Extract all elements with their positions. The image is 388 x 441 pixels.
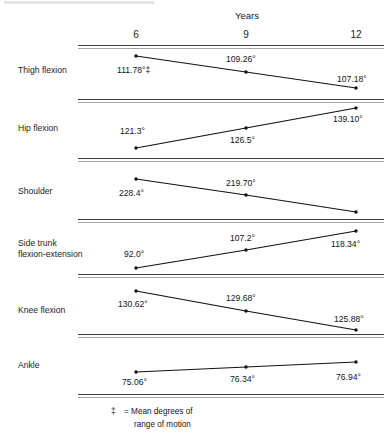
x-tick-label-12: 12 — [350, 29, 362, 40]
value-label: 129.68° — [226, 293, 256, 303]
x-tick-label-9: 9 — [243, 29, 249, 40]
value-label: 125.88° — [334, 314, 364, 324]
value-label: 76.34° — [230, 374, 255, 384]
figure-canvas: Years 6 9 12 Thigh flexion 111.78°‡ 109.… — [0, 0, 388, 441]
panel-thigh-flexion: Thigh flexion 111.78°‡ 109.26° 107.18° — [18, 54, 367, 90]
value-label: 75.06° — [122, 377, 147, 387]
data-point — [134, 54, 137, 57]
data-point — [354, 106, 357, 109]
panel-ankle: Ankle 75.06° 76.34° 76.94° — [18, 360, 361, 387]
value-label: 92.0° — [124, 249, 144, 259]
range-of-motion-figure: Years 6 9 12 Thigh flexion 111.78°‡ 109.… — [0, 0, 388, 441]
data-point — [244, 309, 247, 312]
data-point — [244, 126, 247, 129]
separator-rules — [78, 46, 384, 398]
data-point — [354, 210, 357, 213]
value-label: 121.3° — [120, 126, 145, 136]
value-label: 111.78°‡ — [117, 65, 150, 75]
row-label-side-trunk-line1: Side trunk — [18, 238, 57, 248]
data-point — [134, 177, 137, 180]
footnote-dagger-symbol: ‡ — [111, 407, 116, 416]
value-label: 76.94° — [336, 372, 361, 382]
value-label: 130.62° — [118, 299, 148, 309]
value-label: 118.34° — [331, 239, 360, 249]
data-point — [244, 193, 247, 196]
panel-hip-flexion: Hip flexion 121.3° 126.5° 139.10° — [18, 106, 363, 149]
footnote: ‡ = Mean degrees of range of motion — [111, 407, 193, 429]
data-point — [134, 370, 137, 373]
data-point — [354, 86, 357, 89]
data-point — [354, 360, 357, 363]
data-point — [244, 70, 247, 73]
row-label-ankle: Ankle — [18, 360, 40, 370]
data-point — [244, 365, 247, 368]
row-label-side-trunk-line2: flexion-extension — [18, 249, 83, 259]
panel-shoulder: Shoulder 228.4° 219.70° — [18, 177, 358, 213]
data-point — [354, 229, 357, 232]
row-label-knee-flexion: Knee flexion — [18, 305, 66, 315]
value-label: 139.10° — [333, 114, 363, 124]
footnote-line-1: = Mean degrees of — [124, 407, 193, 416]
data-point — [244, 248, 247, 251]
data-point — [134, 289, 137, 292]
panel-side-trunk-flexion-extension: Side trunk flexion-extension 92.0° 107.2… — [18, 229, 360, 269]
data-point — [134, 266, 137, 269]
row-label-shoulder: Shoulder — [18, 186, 53, 196]
value-label: 228.4° — [119, 188, 144, 198]
axis-title-years: Years — [235, 10, 259, 21]
data-point — [354, 328, 357, 331]
row-label-hip-flexion: Hip flexion — [18, 123, 58, 133]
row-label-thigh-flexion: Thigh flexion — [18, 65, 67, 75]
x-tick-label-6: 6 — [133, 29, 139, 40]
value-label: 219.70° — [226, 178, 256, 188]
data-point — [134, 146, 137, 149]
panel-knee-flexion: Knee flexion 130.62° 129.68° 125.88° — [18, 289, 364, 331]
value-label: 107.18° — [337, 74, 367, 84]
footnote-line-2: range of motion — [134, 420, 191, 429]
value-label: 126.5° — [230, 135, 255, 145]
value-label: 109.26° — [226, 54, 256, 64]
value-label: 107.2° — [230, 233, 255, 243]
scan-crop-artifact — [4, 1, 154, 4]
